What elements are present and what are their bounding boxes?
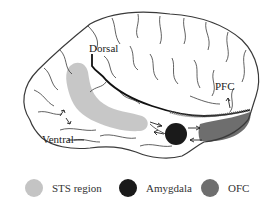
sts-swatch-icon bbox=[25, 179, 43, 197]
amygdala-swatch-icon bbox=[119, 179, 137, 197]
sts-region bbox=[66, 63, 148, 132]
legend-item-sts: STS region bbox=[25, 176, 102, 200]
legend-label: STS region bbox=[52, 182, 102, 194]
legend-label: OFC bbox=[228, 182, 249, 194]
legend-item-amygdala: Amygdala bbox=[119, 176, 192, 200]
legend: STS region Amygdala OFC bbox=[0, 176, 274, 200]
legend-item-ofc: OFC bbox=[201, 176, 249, 200]
amygdala-circle bbox=[165, 123, 187, 145]
legend-label: Amygdala bbox=[146, 182, 192, 194]
ventral-label: Ventral bbox=[42, 134, 74, 145]
brain-diagram-figure: Dorsal Ventral PFC STS region Amygdala O… bbox=[0, 0, 274, 209]
ofc-swatch-icon bbox=[201, 179, 219, 197]
dorsal-label: Dorsal bbox=[89, 43, 118, 54]
pfc-label: PFC bbox=[215, 81, 235, 92]
